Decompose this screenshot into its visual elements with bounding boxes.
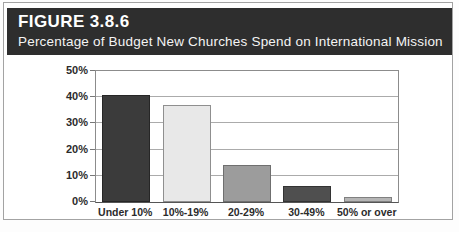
x-category-label: 30-49% [276, 206, 336, 218]
y-tick-label: 0% [54, 195, 88, 207]
x-category-label: 10%-19% [155, 206, 215, 218]
bar [283, 186, 331, 202]
y-tick-mark [90, 122, 95, 123]
bar [102, 95, 150, 202]
bar [163, 105, 211, 202]
plot-area [95, 70, 399, 203]
figure-header: FIGURE 3.8.6 Percentage of Budget New Ch… [7, 8, 452, 55]
y-tick-mark [90, 149, 95, 150]
y-tick-mark [90, 201, 95, 202]
y-tick-mark [90, 70, 95, 71]
y-tick-label: 20% [54, 143, 88, 155]
y-tick-label: 50% [54, 64, 88, 76]
figure-canvas: FIGURE 3.8.6 Percentage of Budget New Ch… [0, 0, 459, 232]
figure-label: FIGURE 3.8.6 [18, 12, 452, 32]
y-tick-mark [90, 175, 95, 176]
y-tick-label: 30% [54, 116, 88, 128]
x-category-label: Under 10% [95, 206, 155, 218]
x-category-label: 50% or over [337, 206, 397, 218]
bar [344, 197, 392, 202]
y-tick-mark [90, 96, 95, 97]
y-tick-label: 40% [54, 90, 88, 102]
figure-subtitle: Percentage of Budget New Churches Spend … [18, 33, 452, 51]
x-category-label: 20-29% [216, 206, 276, 218]
y-tick-label: 10% [54, 169, 88, 181]
bar [223, 165, 271, 202]
